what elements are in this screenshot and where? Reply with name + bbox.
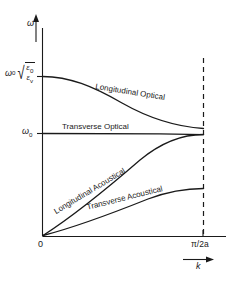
- y-axis-omega-lo-tick-label: ω0√ε0εv: [5, 62, 35, 84]
- x-axis-zone-edge-tick-label: π/2a: [191, 240, 209, 249]
- epsilon-infinity-subscript: v: [30, 77, 33, 84]
- radical-glyph: √: [17, 67, 24, 80]
- y-level-ticks: [37, 77, 43, 134]
- epsilon-static-subscript: 0: [30, 67, 33, 74]
- phonon-dispersion-figure: ω k 0 π/2a ω0 ω0√ε0εv Longitudinal Optic…: [0, 0, 233, 281]
- k-arrow-head: [206, 257, 214, 263]
- curve-longitudinal-acoustical: [43, 135, 204, 236]
- fraction-denominator: εv: [27, 74, 34, 84]
- x-axis-origin-tick-label: 0: [38, 240, 43, 249]
- omega0-symbol: ω: [22, 126, 29, 136]
- curve-label-transverse-optical: Transverse Optical: [62, 123, 129, 131]
- y-axis: [33, 14, 43, 236]
- omega-lo-subscript: 0: [12, 70, 15, 76]
- omega-lo-symbol: ω: [5, 69, 12, 78]
- curve-longitudinal-optical: [43, 77, 204, 129]
- y-axis-title: ω: [27, 19, 34, 28]
- square-root-icon: √ε0εv: [16, 62, 35, 84]
- x-axis-title: k: [196, 262, 201, 271]
- omega0-subscript: 0: [29, 131, 32, 138]
- y-axis-omega0-tick-label: ω0: [22, 127, 32, 138]
- curve-transverse-optical: [43, 134, 204, 135]
- epsilon-ratio-fraction: ε0εv: [25, 62, 35, 84]
